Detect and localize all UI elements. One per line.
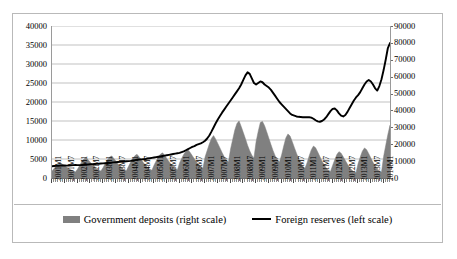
x-axis-minor-tick xyxy=(327,179,328,182)
x-axis-minor-tick xyxy=(383,179,384,183)
legend-item-foreign-reserves: Foreign reserves (left scale) xyxy=(252,214,392,225)
x-axis-minor-tick xyxy=(355,179,356,182)
x-axis-tick-label: 2013M7 xyxy=(373,156,382,181)
x-axis-tick-label: 2004M1 xyxy=(131,156,140,181)
x-axis-minor-tick xyxy=(225,179,226,182)
x-axis-minor-tick xyxy=(366,179,367,182)
x-axis-minor-tick xyxy=(376,179,377,182)
x-axis-minor-tick xyxy=(353,179,354,182)
x-axis-minor-tick xyxy=(89,179,90,183)
x-axis-minor-tick xyxy=(302,179,303,182)
x-axis-minor-tick xyxy=(208,179,209,182)
x-axis-minor-tick xyxy=(325,179,326,182)
x-axis-minor-tick xyxy=(179,179,180,183)
x-axis-minor-tick xyxy=(389,179,390,182)
x-axis-minor-tick xyxy=(108,179,109,182)
x-axis-tick-label: 2009M7 xyxy=(271,156,280,181)
legend-separator xyxy=(14,204,441,205)
x-axis-minor-tick xyxy=(363,179,364,182)
x-axis-minor-tick xyxy=(287,179,288,182)
x-axis-minor-tick xyxy=(323,179,324,182)
x-axis-minor-tick xyxy=(221,179,222,182)
x-axis-tick-label: 2012M1 xyxy=(335,156,344,181)
x-axis-minor-tick xyxy=(142,179,143,182)
x-axis-minor-tick xyxy=(257,179,258,182)
right-axis-tick-label: 70000 xyxy=(394,55,415,64)
x-axis-minor-tick xyxy=(268,179,269,183)
x-axis-minor-tick xyxy=(130,179,131,182)
x-axis-tick-label: 2005M7 xyxy=(169,156,178,181)
x-axis-minor-tick xyxy=(100,179,101,182)
x-axis-minor-tick xyxy=(145,179,146,182)
x-axis-tick-label: 2002M1 xyxy=(80,156,89,181)
x-axis-minor-tick xyxy=(291,179,292,182)
x-axis-minor-tick xyxy=(132,179,133,182)
x-axis-minor-tick xyxy=(96,179,97,182)
x-axis-minor-tick xyxy=(183,179,184,182)
x-axis-minor-tick xyxy=(128,179,129,183)
x-axis-minor-tick xyxy=(266,179,267,182)
x-axis-minor-tick xyxy=(79,179,80,182)
x-axis-tick-label: 2001M7 xyxy=(67,156,76,181)
x-axis-minor-tick xyxy=(151,179,152,182)
x-axis-minor-tick xyxy=(338,179,339,182)
x-axis-minor-tick xyxy=(272,179,273,182)
x-axis-minor-tick xyxy=(374,179,375,182)
x-axis-minor-tick xyxy=(166,179,167,183)
x-axis-tick-label: 2008M7 xyxy=(246,156,255,181)
x-axis-minor-tick xyxy=(60,179,61,182)
x-axis-minor-tick xyxy=(270,179,271,182)
x-axis-minor-tick xyxy=(332,179,333,183)
legend-item-government-deposits: Government deposits (right scale) xyxy=(63,214,227,225)
x-axis-minor-tick xyxy=(189,179,190,182)
x-axis-tick-label: 2007M7 xyxy=(220,156,229,181)
x-axis-minor-tick xyxy=(125,179,126,182)
x-axis-minor-tick xyxy=(334,179,335,182)
x-axis-minor-tick xyxy=(340,179,341,182)
x-axis-minor-tick xyxy=(312,179,313,182)
x-axis-minor-tick xyxy=(319,179,320,183)
x-axis-minor-tick xyxy=(315,179,316,182)
x-axis-minor-tick xyxy=(202,179,203,182)
left-axis-tick-label: 40000 xyxy=(13,22,47,31)
x-axis-minor-tick xyxy=(119,179,120,182)
x-axis-minor-tick xyxy=(123,179,124,182)
x-axis-minor-tick xyxy=(77,179,78,183)
chart-legend: Government deposits (right scale) Foreig… xyxy=(13,210,442,228)
x-axis-tick-label: 2008M1 xyxy=(233,156,242,181)
x-axis-minor-tick xyxy=(85,179,86,182)
x-axis-minor-tick xyxy=(289,179,290,182)
x-axis-minor-tick xyxy=(136,179,137,182)
x-axis-minor-tick xyxy=(234,179,235,182)
x-axis-minor-tick xyxy=(310,179,311,182)
x-axis-minor-tick xyxy=(230,179,231,183)
x-axis-minor-tick xyxy=(206,179,207,182)
x-axis-minor-tick xyxy=(247,179,248,182)
x-axis-tick-label: 2011M7 xyxy=(322,156,331,181)
x-axis-minor-tick xyxy=(219,179,220,182)
x-axis-minor-tick xyxy=(357,179,358,183)
x-axis-minor-tick xyxy=(281,179,282,183)
x-axis-tick-label: 2006M1 xyxy=(182,156,191,181)
x-axis-minor-tick xyxy=(153,179,154,183)
x-axis-minor-tick xyxy=(381,179,382,182)
left-axis-tick-label: 25000 xyxy=(13,79,47,88)
x-axis-minor-tick xyxy=(104,179,105,182)
x-axis-minor-tick xyxy=(244,179,245,182)
x-axis-minor-tick xyxy=(72,179,73,182)
x-axis-minor-tick xyxy=(81,179,82,182)
x-axis-tick-label: 2010M7 xyxy=(297,156,306,181)
x-axis-minor-tick xyxy=(187,179,188,182)
x-axis-minor-tick xyxy=(242,179,243,183)
x-axis-tick-label: 2003M7 xyxy=(118,156,127,181)
x-axis-minor-tick xyxy=(253,179,254,182)
x-axis-minor-tick xyxy=(111,179,112,182)
x-axis-minor-tick xyxy=(57,179,58,182)
x-axis-minor-tick xyxy=(181,179,182,182)
x-axis-minor-tick xyxy=(317,179,318,182)
x-axis-minor-tick xyxy=(232,179,233,182)
right-axis-tick-label: 80000 xyxy=(394,38,415,47)
x-axis-minor-tick xyxy=(55,179,56,182)
x-axis-minor-tick xyxy=(53,179,54,182)
x-axis-minor-tick xyxy=(193,179,194,182)
